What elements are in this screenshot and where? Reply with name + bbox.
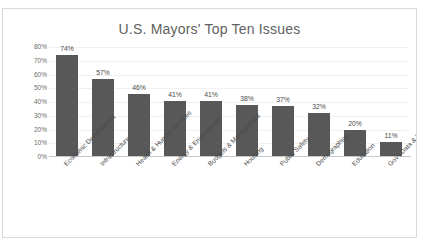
bar-group[interactable]: 11% <box>380 47 402 157</box>
bar-group[interactable]: 57% <box>92 47 114 157</box>
y-axis-tick-label: 20% <box>34 126 47 133</box>
y-axis-tick-label: 40% <box>34 99 47 106</box>
bar-group[interactable]: 74% <box>56 47 78 157</box>
y-axis-tick-label: 30% <box>34 113 47 120</box>
y-axis: 0%10%20%30%40%50%60%70%80% <box>23 47 47 157</box>
y-axis-tick-label: 50% <box>34 85 47 92</box>
bar-value-label: 37% <box>276 97 290 104</box>
bar-value-label: 74% <box>60 46 74 53</box>
bar-group[interactable]: 41% <box>200 47 222 157</box>
y-axis-tick-label: 60% <box>34 71 47 78</box>
bar-value-label: 46% <box>132 85 146 92</box>
bar-value-label: 57% <box>96 70 110 77</box>
bar[interactable] <box>56 55 78 157</box>
x-axis-category-labels: Economic DevelopmentInfrastructureHealth… <box>49 159 409 238</box>
y-axis-tick-label: 80% <box>34 44 47 51</box>
bar-group[interactable]: 38% <box>236 47 258 157</box>
bar-group[interactable]: 32% <box>308 47 330 157</box>
y-axis-tick-label: 70% <box>34 58 47 65</box>
bar-value-label: 32% <box>312 104 326 111</box>
bar-value-label: 38% <box>240 96 254 103</box>
bar-group[interactable]: 41% <box>164 47 186 157</box>
y-axis-tick-label: 10% <box>34 140 47 147</box>
bar-value-label: 11% <box>384 133 397 140</box>
bar[interactable] <box>128 94 150 157</box>
bar-value-label: 41% <box>204 92 218 99</box>
chart-title: U.S. Mayors' Top Ten Issues <box>3 21 416 37</box>
bar-group[interactable]: 37% <box>272 47 294 157</box>
y-axis-tick-label: 0% <box>38 154 47 161</box>
bar-group[interactable]: 46% <box>128 47 150 157</box>
bar-group[interactable]: 20% <box>344 47 366 157</box>
bar-value-label: 41% <box>168 92 182 99</box>
chart-container: U.S. Mayors' Top Ten Issues 0%10%20%30%4… <box>2 8 417 238</box>
bar-value-label: 20% <box>348 121 362 128</box>
